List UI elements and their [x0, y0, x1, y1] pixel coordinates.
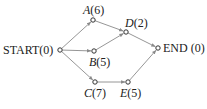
node-label-e: E(5)	[119, 86, 141, 100]
node-e-value: (5)	[127, 86, 141, 100]
node-b-circle	[92, 49, 96, 53]
node-c-value: (7)	[92, 86, 106, 100]
node-b-value: (5)	[96, 55, 110, 69]
node-a-circle	[91, 18, 95, 22]
edge-d-to-end	[128, 33, 155, 47]
node-c-circle	[93, 80, 97, 84]
node-label-start: START(0)	[3, 43, 53, 57]
node-start-circle	[58, 48, 62, 52]
node-d-value: (2)	[134, 16, 148, 30]
edge-e-to-end	[129, 50, 156, 80]
node-d-circle	[124, 30, 128, 34]
node-label-b: B(5)	[89, 55, 110, 69]
node-end-circle	[156, 46, 160, 50]
node-e-circle	[126, 80, 130, 84]
edge-b-to-d	[96, 34, 124, 50]
edge-a-to-d	[95, 21, 123, 31]
node-a-value: (6)	[90, 3, 104, 17]
node-d-name: D	[124, 16, 134, 30]
edge-start-to-a	[62, 22, 91, 49]
activity-network-diagram: START(0) A(6) D(2) B(5) END (0) C(7) E(5…	[0, 0, 207, 109]
node-label-d: D(2)	[124, 16, 148, 30]
node-label-c: C(7)	[84, 86, 106, 100]
edge-start-to-b	[62, 50, 91, 51]
node-label-end: END (0)	[163, 41, 205, 55]
node-label-a: A(6)	[82, 3, 104, 17]
